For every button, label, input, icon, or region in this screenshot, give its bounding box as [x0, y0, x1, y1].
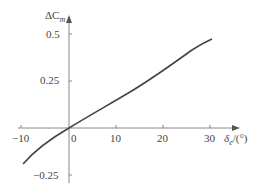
y-tick-label-0-5: 0.5	[46, 29, 60, 40]
x-tick-label-10: 10	[110, 133, 121, 144]
y-label-main: ΔC	[45, 9, 59, 21]
x-axis-label: δe/(°)	[224, 133, 247, 147]
y-axis-label: ΔCm	[45, 10, 65, 24]
chart-canvas	[0, 0, 259, 189]
x-tick-label-30: 30	[204, 133, 215, 144]
y-label-sub: m	[59, 15, 65, 24]
x-tick-label-20: 20	[157, 133, 168, 144]
x-tick-label-0: 0	[71, 133, 77, 144]
y-tick-label-0-25: 0.25	[40, 75, 59, 86]
y-axis-arrow-icon	[66, 15, 72, 23]
x-tick-label-neg-10: −10	[12, 133, 29, 144]
x-label-unit: /(°)	[233, 132, 248, 144]
data-line	[23, 39, 212, 164]
x-axis-arrow-icon	[232, 125, 240, 131]
y-tick-label-neg-0-25: −0.25	[33, 170, 58, 181]
